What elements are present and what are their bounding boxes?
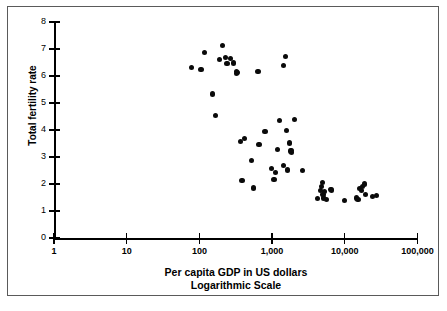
figure-container: 0123456781101001,00010,000100,000 Total … (0, 0, 447, 311)
figure-border (7, 6, 439, 296)
